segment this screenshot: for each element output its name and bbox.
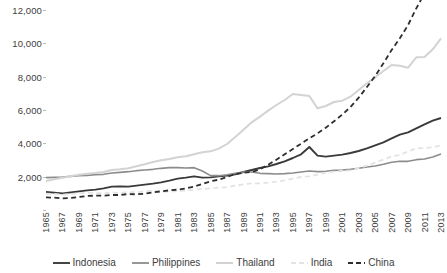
x-tick-label: 1973	[107, 212, 117, 233]
x-tick-label: 1981	[173, 212, 183, 233]
legend-item-philippines[interactable]: Philippines	[132, 257, 200, 268]
x-tick-label: 1979	[156, 212, 166, 233]
x-tick-label: 1989	[239, 212, 249, 233]
x-tick-label: 2007	[387, 212, 397, 233]
x-tick-label: 1969	[74, 212, 84, 233]
legend-swatch-philippines-icon	[132, 258, 149, 268]
legend-swatch-china-icon	[348, 258, 365, 268]
x-tick-label: 1967	[57, 212, 67, 233]
legend-label: India	[311, 257, 333, 268]
chart-legend: IndonesiaPhilippinesThailandIndiaChina	[0, 252, 447, 273]
legend-item-indonesia[interactable]: Indonesia	[53, 257, 116, 268]
legend-item-india[interactable]: India	[291, 257, 333, 268]
series-line-philippines	[46, 154, 441, 178]
legend-label: Indonesia	[73, 257, 116, 268]
x-tick-label: 1995	[288, 212, 298, 233]
y-tick-label: 6,000	[18, 105, 42, 116]
y-axis-baseline-mark	[43, 210, 46, 211]
x-tick-label: 1977	[140, 212, 150, 233]
legend-swatch-thailand-icon	[216, 258, 233, 268]
x-tick-label: 1971	[90, 212, 100, 233]
x-axis: 1965196719691971197319751977197919811983…	[46, 212, 441, 256]
x-tick-label: 1987	[222, 212, 232, 233]
x-tick-label: 1985	[206, 212, 216, 233]
x-tick-label: 2011	[420, 212, 430, 232]
x-tick-label: 1997	[304, 212, 314, 233]
legend-label: Philippines	[152, 257, 200, 268]
x-tick-label: 1983	[189, 212, 199, 233]
y-tick-label: 10,000	[12, 38, 42, 49]
y-tick-label: 12,000	[12, 5, 42, 16]
y-tick-label: 2,000	[18, 171, 42, 182]
plot-area	[46, 10, 441, 210]
legend-swatch-india-icon	[291, 258, 308, 268]
x-tick-label: 2001	[337, 212, 347, 233]
y-tick-label: 4,000	[18, 138, 42, 149]
x-tick-label: 1999	[321, 212, 331, 233]
x-tick-label: 1975	[123, 212, 133, 233]
x-tick-label: 1993	[271, 212, 281, 233]
legend-item-china[interactable]: China	[348, 257, 394, 268]
series-line-china	[46, 0, 441, 198]
legend-item-thailand[interactable]: Thailand	[216, 257, 274, 268]
x-tick-label: 2005	[370, 212, 380, 233]
legend-label: Thailand	[236, 257, 274, 268]
gdp-per-capita-line-chart: 2,0004,0006,0008,00010,00012,000 1965196…	[0, 0, 447, 273]
x-tick-label: 2003	[354, 212, 364, 233]
plot-svg	[46, 10, 441, 210]
legend-label: China	[368, 257, 394, 268]
x-tick-label: 1991	[255, 212, 265, 233]
legend-swatch-indonesia-icon	[53, 258, 70, 268]
x-tick-label: 2009	[403, 212, 413, 233]
x-tick-label: 1965	[41, 212, 51, 233]
y-axis: 2,0004,0006,0008,00010,00012,000	[0, 0, 46, 213]
y-tick-label: 8,000	[18, 71, 42, 82]
x-tick-label: 2013	[436, 212, 446, 233]
